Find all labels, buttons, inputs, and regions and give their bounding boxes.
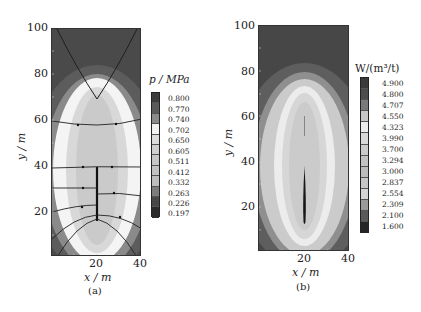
- colorbar-b: [360, 77, 369, 233]
- y-tick-label: 100: [229, 20, 255, 31]
- colorbar-label: 0.740: [168, 116, 189, 124]
- crack-b: [259, 26, 349, 251]
- y-tick-label: 20: [22, 206, 48, 217]
- colorbar-label: 3.700: [382, 146, 403, 154]
- colorbar-label: 0.770: [168, 106, 189, 114]
- colorbar-label: 4.900: [382, 80, 403, 88]
- y-tick-label: 60: [229, 111, 255, 122]
- colorbar-label: 4.707: [382, 102, 403, 110]
- colorbar-swatch: [152, 135, 159, 145]
- y-tick-label: 40: [22, 160, 48, 171]
- colorbar-label: 0.332: [168, 179, 189, 187]
- colorbar-label: 4.323: [382, 124, 403, 132]
- colorbar-label: 2.837: [382, 179, 403, 187]
- colorbar-swatch: [361, 167, 368, 178]
- colorbar-label: 0.650: [168, 137, 189, 145]
- y-tick-label: 100: [22, 22, 48, 33]
- colorbar-swatch: [361, 200, 368, 211]
- colorbar-swatch: [361, 100, 368, 111]
- colorbar-swatch: [152, 124, 159, 134]
- panel-caption: (b): [296, 281, 310, 292]
- colorbar-swatch: [152, 114, 159, 124]
- colorbar-label: 1.600: [382, 223, 403, 231]
- colorbar-swatch: [152, 145, 159, 155]
- colorbar-swatch: [361, 189, 368, 200]
- y-tick-label: 60: [22, 114, 48, 125]
- x-tick-label: 20: [292, 253, 316, 264]
- x-axis-title: x / m: [292, 266, 319, 279]
- colorbar-label: 4.800: [382, 91, 403, 99]
- colorbar-label: 0.511: [168, 158, 189, 166]
- colorbar-title: W/(m³/t): [355, 62, 399, 74]
- colorbar-swatch: [361, 145, 368, 156]
- colorbar-swatch: [152, 103, 159, 113]
- colorbar-swatch: [152, 176, 159, 186]
- colorbar-label: 3.294: [382, 157, 403, 165]
- colorbar-label: 3.990: [382, 135, 403, 143]
- colorbar-swatch: [361, 178, 368, 189]
- x-tick-label: 40: [128, 258, 152, 269]
- colorbar-swatch: [361, 89, 368, 100]
- colorbar-label: 2.100: [382, 212, 403, 220]
- colorbar-label: 0.412: [168, 169, 189, 177]
- colorbar-label: 2.554: [382, 190, 403, 198]
- colorbar-label: 0.197: [168, 210, 189, 218]
- y-tick-label: 40: [229, 156, 255, 167]
- y-axis-title: y / m: [222, 129, 235, 156]
- colorbar-label: 0.605: [168, 148, 189, 156]
- colorbar-label: 0.226: [168, 200, 189, 208]
- streamlines-a: [52, 29, 141, 256]
- colorbar-swatch: [361, 156, 368, 167]
- colorbar-label: 3.000: [382, 168, 403, 176]
- colorbar-swatch: [152, 93, 159, 103]
- colorbar-swatch: [361, 122, 368, 133]
- colorbar-label: 0.800: [168, 95, 189, 103]
- plot-area-a: [51, 28, 141, 256]
- colorbar-swatch: [152, 187, 159, 197]
- colorbar-swatch: [361, 78, 368, 89]
- x-tick-label: 40: [336, 253, 360, 264]
- colorbar-swatch: [361, 111, 368, 122]
- panel-caption: (a): [88, 285, 102, 296]
- colorbar-swatch: [152, 197, 159, 207]
- y-axis-title: y / m: [15, 133, 28, 160]
- colorbar-label: 2.309: [382, 201, 403, 209]
- plot-area-b: [258, 25, 349, 251]
- y-tick-label: 20: [229, 201, 255, 212]
- colorbar-swatch: [152, 207, 159, 217]
- colorbar-label: 0.263: [168, 190, 189, 198]
- colorbar-swatch: [361, 222, 368, 233]
- colorbar-label: 4.550: [382, 113, 403, 121]
- colorbar-a: [151, 92, 160, 217]
- colorbar-swatch: [152, 155, 159, 165]
- x-tick-label: 20: [84, 258, 108, 269]
- colorbar-title: p / MPa: [149, 73, 190, 85]
- colorbar-swatch: [361, 211, 368, 222]
- y-tick-label: 80: [22, 68, 48, 79]
- colorbar-swatch: [361, 133, 368, 144]
- colorbar-swatch: [152, 166, 159, 176]
- x-axis-title: x / m: [84, 271, 111, 284]
- y-tick-label: 80: [229, 66, 255, 77]
- colorbar-label: 0.702: [168, 127, 189, 135]
